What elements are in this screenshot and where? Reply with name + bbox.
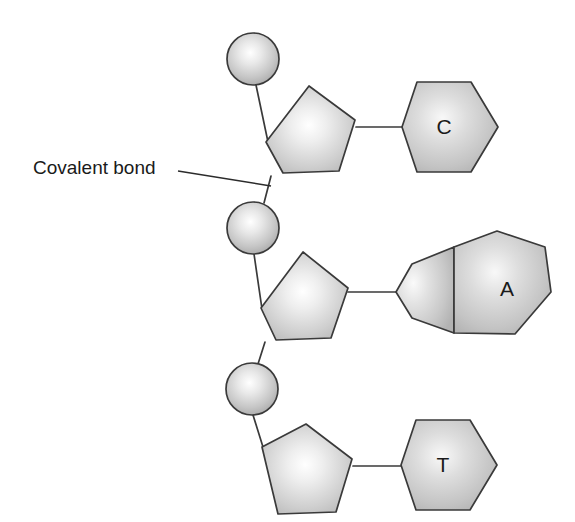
bond-phosphate-to-sugar-a bbox=[254, 254, 262, 309]
sugar-pentagon-a bbox=[261, 252, 348, 340]
nucleotide-a: A bbox=[227, 202, 551, 340]
dna-nucleotide-diagram: C A T Covalent bond bbox=[0, 0, 575, 522]
covalent-bond-label: Covalent bond bbox=[33, 157, 156, 178]
base-label-t: T bbox=[437, 453, 450, 476]
phosphate-circle-t bbox=[226, 363, 278, 415]
phosphate-circle-c bbox=[227, 33, 279, 85]
base-label-c: C bbox=[436, 115, 451, 138]
dna-chain-illustration: C A T Covalent bond bbox=[0, 0, 575, 522]
phosphate-circle-a bbox=[227, 202, 279, 254]
base-label-a: A bbox=[500, 277, 514, 300]
sugar-pentagon-t bbox=[262, 424, 352, 514]
bond-phosphate-to-sugar-t bbox=[253, 415, 263, 447]
callout-covalent-bond: Covalent bond bbox=[33, 157, 271, 187]
base-purine-pentagon-a bbox=[396, 247, 454, 333]
nucleotide-c: C bbox=[227, 33, 498, 173]
sugar-pentagon-c bbox=[266, 86, 355, 173]
nucleotide-t: T bbox=[226, 363, 497, 514]
bond-sugar-a-to-phosphate-t bbox=[258, 342, 265, 364]
covalent-bond-leader-line bbox=[178, 171, 271, 186]
bond-phosphate-to-sugar-c bbox=[256, 85, 268, 142]
bond-sugar-c-to-phosphate-a bbox=[264, 176, 271, 203]
